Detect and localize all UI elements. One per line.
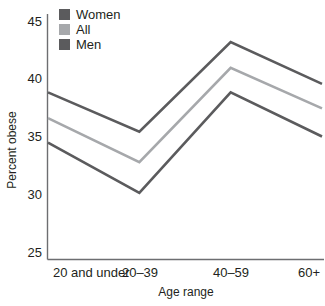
y-tick-labels: 45 40 35 30 25 [28,14,42,260]
x-tick-labels: 20 and under 20–39 40–59 60+ [53,265,320,280]
x-tick-2: 40–59 [213,265,249,280]
x-axis-title: Age range [158,285,214,299]
x-tick-3: 60+ [298,265,320,280]
obesity-line-chart: 45 40 35 30 25 Percent obese 20 and unde… [0,0,325,306]
y-axis-title: Percent obese [5,111,19,189]
legend-label-men: Men [76,37,101,52]
legend-swatch-all [59,24,70,35]
legend-swatch-men [59,39,70,50]
chart-legend: Women All Men [59,7,121,52]
legend-label-all: All [76,22,91,37]
series-group [48,42,322,193]
y-tick-45: 45 [28,14,42,29]
x-tick-0: 20 and under [53,265,130,280]
series-line-women [48,42,322,131]
y-tick-30: 30 [28,187,42,202]
legend-label-women: Women [76,7,121,22]
y-tick-35: 35 [28,129,42,144]
chart-canvas: 45 40 35 30 25 Percent obese 20 and unde… [0,0,325,306]
x-tick-1: 20–39 [122,265,158,280]
y-tick-40: 40 [28,71,42,86]
series-line-all [48,68,322,162]
series-line-men [48,92,322,192]
legend-swatch-women [59,9,70,20]
y-tick-25: 25 [28,245,42,260]
